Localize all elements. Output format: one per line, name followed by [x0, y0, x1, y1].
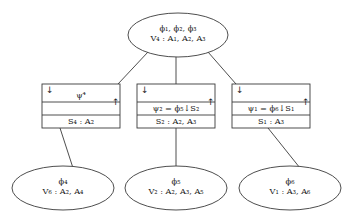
leaf-right-line-1: ϕ₆ — [239, 177, 341, 187]
leaf-ellipse-right — [239, 166, 341, 210]
leaf-ellipse-left — [12, 166, 114, 210]
box-1-row-3-label: S₄ : A₂ — [42, 117, 120, 127]
edge-box-left-to-leaf — [60, 128, 73, 168]
leaf-middle-line-1: ϕ₅ — [125, 177, 227, 187]
down-arrow-icon-box-2: ↓ — [141, 86, 149, 95]
leaf-ellipse-middle — [125, 166, 227, 210]
edges-group — [60, 52, 300, 168]
box-3-row-2-label: ψ₁ = ϕ₆↓S₁ — [232, 104, 310, 114]
leaf-right-labels: ϕ₆ V₁ : A₃, A₆ — [239, 177, 341, 196]
diagram-vector-layer — [0, 0, 357, 224]
diagram-canvas: ϕ₁, ϕ₂, ϕ₃ V₄ : A₁, A₂, A₃ ↓ ↑ ψ⁴ S₄ : A… — [0, 0, 357, 224]
up-arrow-icon-box-1: ↑ — [112, 98, 120, 107]
shapes-group — [12, 13, 341, 210]
leaf-middle-labels: ϕ₅ V₂ : A₂, A₃, A₅ — [125, 177, 227, 196]
edge-root-to-box-right — [208, 52, 236, 84]
separator-box-left — [42, 84, 120, 128]
root-ellipse — [128, 13, 228, 57]
separator-box-right — [232, 84, 310, 128]
box-2-row-2-label: ψ₂ = ϕ₅↓S₂ — [137, 104, 215, 114]
root-line-1: ϕ₁, ϕ₂, ϕ₃ — [128, 24, 228, 34]
up-arrow-icon-box-3: ↑ — [302, 98, 310, 107]
root-line-2: V₄ : A₁, A₂, A₃ — [128, 34, 228, 44]
leaf-left-line-1: ϕ₄ — [12, 177, 114, 187]
box-2-row-3-label: S₂ : A₂, A₃ — [137, 117, 215, 127]
leaf-left-labels: ϕ₄ V₆ : A₂, A₄ — [12, 177, 114, 196]
down-arrow-icon-box-3: ↓ — [236, 86, 244, 95]
leaf-middle-line-2: V₂ : A₂, A₃, A₅ — [125, 187, 227, 197]
up-arrow-icon-box-2: ↑ — [207, 98, 215, 107]
leaf-right-line-2: V₁ : A₃, A₆ — [239, 187, 341, 197]
box-3-row-3-label: S₁ : A₃ — [232, 117, 310, 127]
edge-root-to-box-left — [118, 52, 148, 84]
root-ellipse-labels: ϕ₁, ϕ₂, ϕ₃ V₄ : A₁, A₂, A₃ — [128, 24, 228, 43]
down-arrow-icon-box-1: ↓ — [46, 86, 54, 95]
leaf-left-line-2: V₆ : A₂, A₄ — [12, 187, 114, 197]
box-1-row-1-label: ψ⁴ — [42, 91, 120, 101]
edge-box-right-to-leaf — [268, 128, 300, 168]
separator-box-middle — [137, 84, 215, 128]
